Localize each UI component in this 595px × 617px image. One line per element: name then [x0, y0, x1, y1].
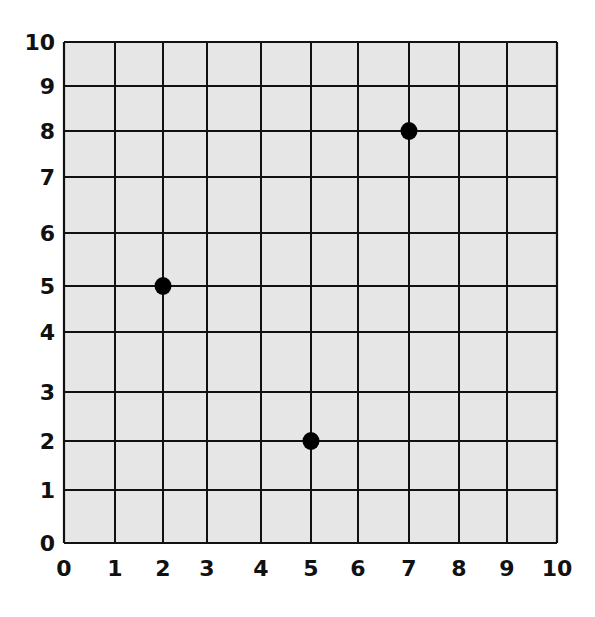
y-tick-label: 8 [40, 119, 55, 144]
x-axis-tick-labels: 012345678910 [56, 556, 572, 581]
y-tick-label: 2 [40, 429, 55, 454]
x-tick-label: 1 [107, 556, 122, 581]
y-tick-label: 0 [40, 531, 55, 556]
x-tick-label: 5 [303, 556, 318, 581]
x-tick-label: 7 [401, 556, 416, 581]
y-tick-label: 4 [40, 320, 55, 345]
data-point [303, 432, 320, 450]
x-tick-label: 4 [253, 556, 268, 581]
scatter-chart: 012345678910 012345678910 [0, 0, 595, 617]
x-tick-label: 9 [499, 556, 514, 581]
y-axis-tick-labels: 012345678910 [24, 30, 55, 556]
x-tick-label: 2 [155, 556, 170, 581]
y-tick-label: 7 [40, 165, 55, 190]
y-tick-label: 1 [40, 478, 55, 503]
x-tick-label: 3 [199, 556, 214, 581]
y-tick-label: 10 [24, 30, 55, 55]
y-tick-label: 9 [40, 74, 55, 99]
x-tick-label: 0 [56, 556, 71, 581]
x-tick-label: 8 [451, 556, 466, 581]
y-tick-label: 5 [40, 274, 55, 299]
x-tick-label: 10 [542, 556, 573, 581]
y-tick-label: 3 [40, 380, 55, 405]
x-tick-label: 6 [350, 556, 365, 581]
data-point [401, 122, 418, 140]
data-point [155, 277, 172, 295]
y-tick-label: 6 [40, 221, 55, 246]
